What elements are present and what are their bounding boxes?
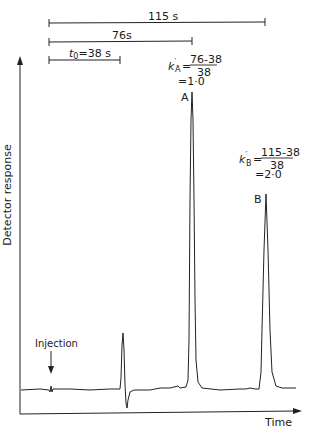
svg-text:A: A [175, 65, 181, 74]
svg-text:76-38: 76-38 [190, 53, 222, 66]
x-axis [20, 411, 296, 414]
y-axis-label: Detector response [1, 144, 14, 246]
kB-formula: k′ B = 115-38 38 =2·0 [239, 146, 300, 181]
injection-label: Injection [35, 338, 78, 349]
y-axis-arrow-icon [17, 56, 23, 65]
bar-t0-label: t0=38 s [69, 47, 111, 61]
svg-text:B: B [246, 159, 252, 168]
axes [17, 56, 302, 414]
x-axis-label: Time [264, 416, 292, 429]
bar-115s-label: 115 s [148, 10, 178, 23]
kA-formula: k′ A = 76-38 38 =1·0 [168, 53, 222, 88]
peak-b-label: B [254, 193, 262, 206]
svg-text:115-38: 115-38 [261, 146, 300, 159]
svg-text:=1·0: =1·0 [178, 75, 205, 88]
x-axis-arrow-icon [293, 408, 302, 414]
chromatogram-chart: Detector response Time 115 s 76s t0=38 s… [0, 0, 315, 433]
svg-text:=2·0: =2·0 [255, 168, 282, 181]
bar-76s-label: 76s [112, 29, 132, 42]
peak-a-label: A [181, 91, 189, 104]
chromatogram-trace [21, 92, 296, 408]
injection-arrow-icon [48, 366, 54, 374]
